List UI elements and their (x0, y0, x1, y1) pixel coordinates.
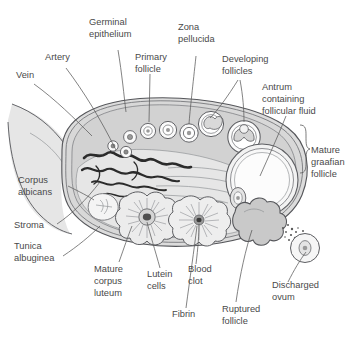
label-line: Stroma (14, 220, 45, 230)
label-fibrin: Fibrin (172, 309, 195, 319)
label-artery: Artery (45, 52, 70, 62)
label-line: follicle (222, 316, 248, 326)
label-line: albicans (18, 187, 52, 197)
label-mature-corpus-luteum: Maturecorpusluteum (94, 264, 123, 298)
label-tunica-albuginea: Tunicaalbuginea (14, 241, 55, 263)
primary-follicle (140, 123, 155, 138)
label-line: cells (147, 281, 166, 291)
label-line: Ruptured (222, 304, 260, 314)
ruptured-follicle-body (233, 198, 287, 245)
discharged-ovum-cell (291, 234, 320, 263)
label-line: graafian (311, 157, 345, 167)
follicle-with-zona-pellucida (180, 124, 198, 142)
primary-follicle (108, 141, 118, 151)
label-line: Discharged (272, 280, 319, 290)
label-line: corpus (94, 276, 122, 286)
label-antrum: Antrumcontainingfollicular fluid (262, 82, 316, 116)
label-line: Blood (188, 264, 212, 274)
label-line: albuginea (14, 253, 55, 263)
label-line: Mature (311, 145, 340, 155)
ovary-diagram-figure: VeinArteryGerminalepitheliumPrimaryfolli… (0, 0, 348, 346)
label-vein: Vein (16, 70, 34, 80)
label-primary-follicle: Primaryfollicle (135, 52, 167, 74)
primary-follicle (120, 146, 131, 157)
label-mature-graafian: Maturegraafianfollicle (311, 145, 345, 179)
label-line: Zona (178, 22, 200, 32)
label-lutein-cells: Luteincells (147, 269, 172, 291)
label-line: follicle (135, 64, 161, 74)
label-line: Corpus (18, 175, 48, 185)
lutein-cell-body (169, 196, 231, 246)
developing-follicle (198, 111, 223, 136)
primary-follicle (124, 131, 137, 144)
label-line: follicle (311, 169, 337, 179)
label-line: Artery (45, 52, 70, 62)
label-line: pellucida (178, 34, 216, 44)
label-line: Germinal (89, 17, 127, 27)
label-stroma: Stroma (14, 220, 45, 230)
label-line: follicles (222, 66, 253, 76)
ovary-cross-section-illustration: VeinArteryGerminalepitheliumPrimaryfolli… (0, 0, 348, 346)
label-blood-clot: Bloodclot (188, 264, 212, 286)
label-line: Antrum (262, 82, 292, 92)
label-developing-follicles: Developingfollicles (222, 54, 269, 76)
label-germinal-epithelium: Germinalepithelium (89, 17, 132, 39)
label-line: follicular fluid (262, 106, 316, 116)
label-line: Fibrin (172, 309, 195, 319)
label-line: clot (188, 276, 203, 286)
primary-follicle (159, 121, 176, 138)
label-line: Mature (94, 264, 123, 274)
corpus-albicans-body (88, 194, 118, 221)
label-discharged-ovum: Dischargedovum (272, 280, 319, 302)
label-line: Lutein (147, 269, 172, 279)
label-ruptured-follicle: Rupturedfollicle (222, 304, 260, 326)
label-line: containing (262, 94, 304, 104)
label-zona-pellucida: Zonapellucida (178, 22, 216, 44)
label-line: ovum (272, 292, 295, 302)
label-line: Tunica (14, 241, 42, 251)
label-line: Developing (222, 54, 269, 64)
label-line: luteum (94, 288, 122, 298)
label-line: epithelium (89, 29, 132, 39)
label-line: Vein (16, 70, 34, 80)
label-line: Primary (135, 52, 167, 62)
